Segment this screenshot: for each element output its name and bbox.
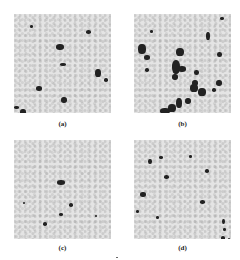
panel-a-caption: (a) [14,120,111,128]
dark-cluster [30,25,33,28]
panel-c-caption: (c) [14,244,111,252]
dark-cluster [194,70,199,75]
dark-cluster [95,215,97,217]
dark-cluster [156,216,159,219]
dark-cluster [60,63,66,66]
dark-cluster [228,238,230,239]
dark-cluster [104,78,108,82]
dark-cluster [198,88,206,96]
stray-mark [116,257,118,258]
panel-c-image [14,140,111,239]
dark-cluster [138,44,146,54]
dark-cluster [190,84,198,92]
dark-cluster [57,180,65,185]
dark-cluster [200,200,205,204]
panel-d-image [134,140,231,239]
dark-cluster [20,109,26,113]
dark-cluster [206,32,210,40]
dark-cluster [223,228,226,231]
dark-cluster [59,213,63,216]
dark-cluster [178,66,186,72]
dark-cluster [217,52,222,57]
dark-cluster [144,55,150,60]
dark-cluster [14,106,19,109]
dark-cluster [160,108,170,113]
panel-d-caption: (d) [134,244,231,252]
dark-cluster [69,203,73,207]
dark-cluster [61,97,67,103]
dark-cluster [221,236,225,239]
dark-cluster [140,192,146,197]
dark-cluster [185,98,191,104]
panel-b-image [134,14,231,113]
dark-cluster [220,17,224,20]
dark-cluster [222,219,225,224]
dark-cluster [176,98,182,108]
dark-cluster [43,222,47,226]
dark-cluster [176,48,184,56]
dark-cluster [56,44,64,50]
dark-cluster [145,68,149,72]
panel-a-image [14,14,111,113]
dark-cluster [164,175,169,179]
dark-cluster [148,159,152,164]
dark-cluster [205,169,209,173]
dark-cluster [36,86,42,91]
dark-cluster [189,155,192,158]
dark-cluster [159,156,163,159]
dark-cluster [172,74,178,80]
dark-cluster [23,202,25,204]
dark-cluster [95,69,101,77]
panel-b-caption: (b) [134,120,231,128]
dark-cluster [216,80,222,86]
dark-cluster [212,88,216,92]
dark-cluster [150,30,153,33]
dark-cluster [136,210,139,213]
dark-cluster [86,30,91,34]
